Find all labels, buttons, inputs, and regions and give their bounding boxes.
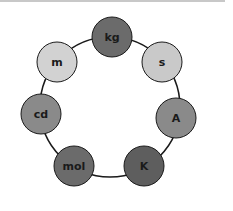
unit-node-label: A — [172, 112, 181, 125]
unit-node-kg: kg — [92, 17, 132, 57]
unit-node-s: s — [142, 42, 182, 82]
unit-node-label: K — [140, 160, 149, 173]
unit-node-label: cd — [34, 108, 48, 121]
unit-node-mol: mol — [54, 146, 94, 186]
unit-node-m: m — [37, 42, 77, 82]
si-units-ring-diagram: kgsAKmolcdm — [0, 0, 233, 211]
unit-node-label: s — [159, 56, 166, 69]
unit-node-label: mol — [63, 160, 86, 173]
unit-node-cd: cd — [21, 94, 61, 134]
unit-nodes: kgsAKmolcdm — [21, 17, 196, 186]
unit-node-label: m — [51, 56, 62, 69]
unit-node-label: kg — [104, 31, 119, 44]
unit-node-a: A — [156, 98, 196, 138]
unit-node-k: K — [124, 146, 164, 186]
